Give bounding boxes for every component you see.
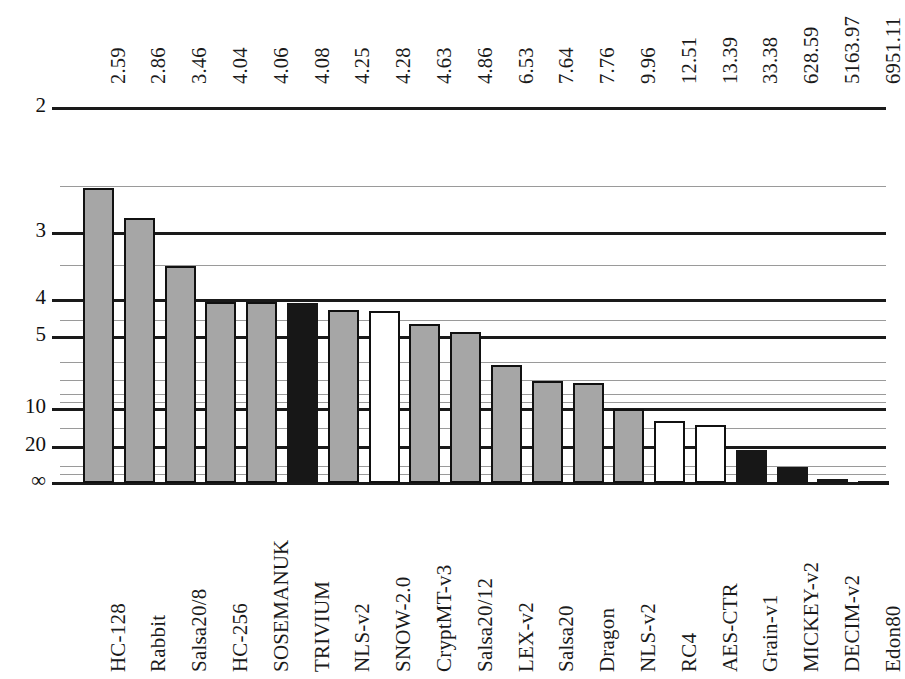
bar-trivium <box>287 303 318 483</box>
category-label-snow-2-0: SNOW-2.0 <box>393 492 414 672</box>
y-tick-label-infinity: ∞ <box>0 470 46 491</box>
value-label-rc4: 12.51 <box>679 0 680 84</box>
value-label-trivium: 4.08 <box>312 0 313 84</box>
value-label-dragon: 7.76 <box>597 0 598 84</box>
bar-rabbit <box>124 218 155 483</box>
category-label-grain-v1: Grain-v1 <box>760 492 781 672</box>
category-label-hc-128: HC-128 <box>108 492 129 672</box>
gridline-major-3 <box>60 232 886 235</box>
category-label-edon80: Edon80 <box>883 492 904 672</box>
y-tick-label-10: 10 <box>0 396 46 417</box>
y-tick-mark-3 <box>52 336 82 339</box>
category-label-sosemanuk: SOSEMANUK <box>271 492 292 672</box>
bar-salsa20-8 <box>165 266 196 483</box>
y-tick-mark-4 <box>52 408 82 411</box>
bar-decim-v2 <box>817 479 848 483</box>
category-label-dragon: Dragon <box>597 492 618 672</box>
category-label-decim-v2: DECIM-v2 <box>842 492 863 672</box>
value-label-salsa20: 7.64 <box>556 0 557 84</box>
y-tick-label-2: 2 <box>0 95 46 116</box>
y-tick-label-5: 5 <box>0 324 46 345</box>
value-label-edon80: 6951.11 <box>883 0 884 84</box>
category-label-salsa20-8: Salsa20/8 <box>189 492 210 672</box>
bar-nls-v2 <box>613 409 644 483</box>
category-label-rabbit: Rabbit <box>148 492 169 672</box>
value-label-cryptmt-v3: 4.63 <box>434 0 435 84</box>
y-tick-mark-2 <box>52 299 82 302</box>
bar-lex-v2 <box>491 365 522 483</box>
y-tick-mark-0 <box>52 107 82 110</box>
bar-nls-v2 <box>328 310 359 483</box>
category-label-lex-v2: LEX-v2 <box>516 492 537 672</box>
bar-cryptmt-v3 <box>409 324 440 483</box>
category-label-hc-256: HC-256 <box>230 492 251 672</box>
value-label-rabbit: 2.86 <box>148 0 149 84</box>
category-label-salsa20-12: Salsa20/12 <box>475 492 496 672</box>
category-label-salsa20: Salsa20 <box>556 492 577 672</box>
value-label-aes-ctr: 13.39 <box>720 0 721 84</box>
value-label-nls-v2: 9.96 <box>638 0 639 84</box>
category-label-cryptmt-v3: CryptMT-v3 <box>434 492 455 672</box>
value-label-salsa20-12: 4.86 <box>475 0 476 84</box>
y-tick-mark-5 <box>52 446 82 449</box>
value-label-grain-v1: 33.38 <box>760 0 761 84</box>
y-tick-label-3: 3 <box>0 220 46 241</box>
value-label-mickey-v2: 628.59 <box>801 0 802 84</box>
bar-hc-128 <box>83 188 114 483</box>
value-label-sosemanuk: 4.06 <box>271 0 272 84</box>
gridline-major-2 <box>60 107 886 110</box>
bar-salsa20-12 <box>450 332 481 483</box>
category-label-mickey-v2: MICKEY-v2 <box>801 492 822 672</box>
bar-aes-ctr <box>695 425 726 483</box>
bar-rc4 <box>654 421 685 483</box>
category-label-aes-ctr: AES-CTR <box>720 492 741 672</box>
gridline-minor-0 <box>60 186 886 187</box>
category-label-nls-v2: NLS-v2 <box>638 492 659 672</box>
category-label-trivium: TRIVIUM <box>312 492 333 672</box>
bar-mickey-v2 <box>777 467 808 483</box>
y-tick-label-4: 4 <box>0 287 46 308</box>
value-label-nls-v2: 4.25 <box>352 0 353 84</box>
bar-hc-256 <box>205 302 236 483</box>
bar-edon80 <box>858 481 889 485</box>
bar-dragon <box>573 383 604 483</box>
bar-snow-2-0 <box>369 311 400 483</box>
value-label-hc-256: 4.04 <box>230 0 231 84</box>
value-label-hc-128: 2.59 <box>108 0 109 84</box>
value-label-decim-v2: 5163.97 <box>842 0 843 84</box>
value-label-lex-v2: 6.53 <box>516 0 517 84</box>
value-label-salsa20-8: 3.46 <box>189 0 190 84</box>
bar-salsa20 <box>532 381 563 483</box>
category-label-rc4: RC4 <box>679 492 700 672</box>
y-tick-mark-6 <box>52 482 82 485</box>
category-label-nls-v2: NLS-v2 <box>352 492 373 672</box>
y-tick-label-20: 20 <box>0 434 46 455</box>
bar-sosemanuk <box>246 302 277 483</box>
y-tick-mark-1 <box>52 232 82 235</box>
value-label-snow-2-0: 4.28 <box>393 0 394 84</box>
bar-grain-v1 <box>736 450 767 483</box>
